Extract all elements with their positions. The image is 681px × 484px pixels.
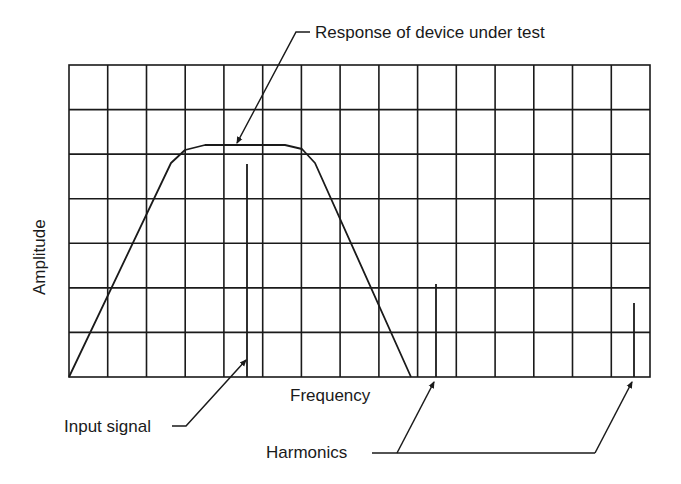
- harmonics-label: Harmonics: [266, 443, 347, 462]
- grid-vertical-lines: [108, 65, 612, 377]
- response-label: Response of device under test: [315, 23, 545, 42]
- x-axis-label: Frequency: [290, 386, 371, 405]
- response-leader: [237, 32, 310, 143]
- harmonics-leader: [372, 382, 632, 453]
- input-leader: [172, 360, 246, 426]
- grid-horizontal-lines: [69, 110, 650, 333]
- response-arrow-icon: [237, 32, 310, 143]
- plot-frame: [69, 65, 650, 377]
- input-signal-label: Input signal: [64, 417, 151, 436]
- spectrum-diagram: Response of device under test Frequency …: [0, 0, 681, 484]
- response-curve: [69, 145, 411, 377]
- input-arrow-icon: [172, 360, 246, 426]
- harmonic-arrow-1-icon: [397, 382, 434, 453]
- y-axis-label: Amplitude: [30, 219, 49, 295]
- harmonic-arrow-2-icon: [595, 382, 632, 453]
- grid: [69, 65, 650, 377]
